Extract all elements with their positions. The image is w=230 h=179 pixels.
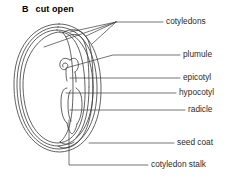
label-plumule: plumule [183,50,212,59]
panel-title-text: cut open [36,4,74,14]
panel-title: Bcut open [22,4,74,14]
embryo-group [60,58,82,144]
leader-cotyledon-stalk [69,120,148,165]
leader-lines [44,22,185,165]
hypocotyl-segment [61,88,82,124]
label-cotyledon-stalk: cotyledon stalk [151,160,206,169]
label-radicle: radicle [188,105,212,114]
epicotyl-segment [66,69,76,82]
leader-cotyledons [44,22,163,47]
cotyledon-inner-face [60,33,73,142]
seed-coat-outer-outline [14,24,101,152]
label-hypocotyl: hypocotyl [179,88,214,97]
label-seed-coat: seed coat [177,138,213,147]
figure-panel: Bcut open cotyledons plumule epicotyl hy… [0,0,230,179]
panel-letter: B [22,4,29,14]
label-epicotyl: epicotyl [183,73,211,82]
label-cotyledons: cotyledons [166,17,206,26]
radicle-tip [67,123,77,134]
cotyledon-large [23,32,85,143]
